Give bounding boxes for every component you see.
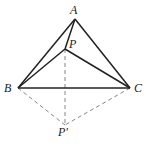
segment-A-C (75, 19, 130, 88)
segment-B-P (18, 49, 65, 88)
solid-segments (18, 19, 130, 88)
label-A: A (69, 3, 78, 17)
segment-A-B (18, 19, 75, 88)
geometry-diagram: A B C P P' (0, 0, 146, 144)
dashed-segments (18, 49, 130, 125)
segment-C-P (65, 49, 130, 88)
label-P: P (68, 37, 77, 51)
label-C: C (134, 81, 143, 95)
label-P-prime: P' (57, 125, 68, 139)
label-B: B (4, 81, 12, 95)
segment-C-Pprime (65, 88, 130, 125)
segment-B-Pprime (18, 88, 65, 125)
